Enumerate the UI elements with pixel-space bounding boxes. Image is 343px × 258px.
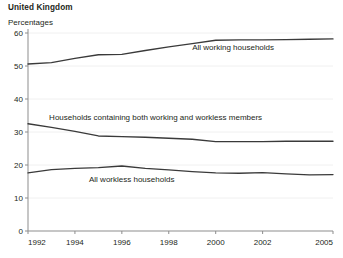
series-line bbox=[28, 124, 333, 142]
x-tick-label: 1998 bbox=[160, 238, 178, 247]
series-line bbox=[28, 166, 333, 175]
y-tick-label: 50 bbox=[14, 62, 23, 71]
x-tick-label: 1994 bbox=[66, 238, 84, 247]
x-tick-label: 2000 bbox=[207, 238, 225, 247]
chart-plot-area: 0102030405060 19921994199619982000200220… bbox=[0, 0, 343, 258]
x-tick-label: 2005 bbox=[315, 238, 333, 247]
x-axis-tick-labels: 1992199419961998200020022005 bbox=[28, 231, 334, 247]
series-annotation-label: Households containing both working and w… bbox=[49, 113, 262, 122]
series-line bbox=[28, 39, 333, 64]
series-annotations: All working householdsHouseholds contain… bbox=[49, 43, 274, 184]
chart-container: United Kingdom Percentages 0102030405060… bbox=[0, 0, 343, 258]
y-tick-label: 60 bbox=[14, 29, 23, 38]
data-series bbox=[28, 39, 333, 175]
y-tick-label: 30 bbox=[14, 128, 23, 137]
series-annotation-label: All working households bbox=[192, 43, 274, 52]
series-annotation-label: All workless households bbox=[89, 175, 174, 184]
y-tick-label: 10 bbox=[14, 194, 23, 203]
x-tick-label: 1996 bbox=[113, 238, 131, 247]
x-tick-label: 1992 bbox=[28, 238, 46, 247]
y-tick-label: 20 bbox=[14, 161, 23, 170]
y-axis-tick-labels: 0102030405060 bbox=[14, 29, 28, 236]
y-tick-label: 40 bbox=[14, 95, 23, 104]
y-tick-label: 0 bbox=[19, 227, 24, 236]
x-tick-label: 2002 bbox=[254, 238, 272, 247]
